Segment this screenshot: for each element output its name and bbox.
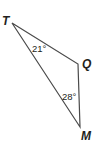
vertex-label-q: Q: [82, 57, 92, 71]
angle-label-t: 21°: [32, 43, 47, 54]
triangle-tqm: [12, 23, 80, 127]
triangle-diagram: T Q M 21° 28°: [0, 0, 97, 144]
vertex-label-m: M: [81, 129, 92, 143]
angle-label-m: 28°: [62, 91, 77, 102]
vertex-label-t: T: [2, 14, 11, 28]
